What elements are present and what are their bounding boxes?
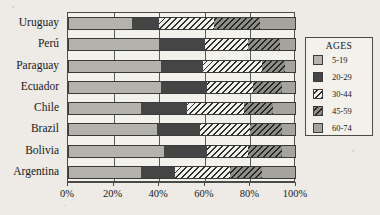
legend-swatch-icon [313, 123, 323, 133]
category-label: Perú [38, 37, 59, 50]
scan-speckle [64, 205, 66, 206]
bar-segment [205, 38, 248, 51]
bar-segment [248, 38, 280, 51]
bar-segment [164, 145, 207, 158]
category-label: Chile [34, 101, 59, 114]
scan-speckle [196, 196, 198, 198]
x-axis-tick [113, 182, 114, 186]
category-label: Paraguay [16, 59, 59, 72]
bar-segment [214, 17, 260, 30]
x-axis-tick [158, 182, 159, 186]
bar-segment [273, 102, 296, 115]
x-axis-tick-label: 100% [283, 188, 308, 200]
bar-segment [161, 81, 207, 94]
bar-segment [282, 123, 296, 136]
bar-segment [159, 38, 205, 51]
bar-segment [68, 145, 164, 158]
bar-segment [132, 17, 159, 30]
legend-swatch-icon [313, 106, 323, 116]
bar-segment [253, 81, 283, 94]
scan-speckle [352, 150, 354, 152]
legend-swatch-icon [313, 72, 323, 82]
bar-segment [280, 38, 296, 51]
bar-segment [262, 166, 296, 179]
category-label: Bolivia [25, 144, 59, 157]
x-axis-tick [204, 182, 205, 186]
bar-segment [68, 102, 141, 115]
bar-row [68, 102, 294, 115]
bar-segment [161, 60, 202, 73]
x-axis-tick [249, 182, 250, 186]
x-axis-tick [295, 182, 296, 186]
category-label: Ecuador [21, 80, 59, 93]
bar-row [68, 81, 294, 94]
legend-label: 20-29 [332, 72, 352, 82]
bar-row [68, 17, 294, 30]
scan-speckle [12, 6, 14, 8]
legend-item[interactable]: 30-44 [313, 88, 352, 100]
legend-item[interactable]: 20-29 [313, 71, 352, 83]
bar-segment [244, 102, 274, 115]
bar-segment [68, 60, 161, 73]
category-axis-labels: UruguayPerúParaguayEcuadorChileBrazilBol… [0, 12, 63, 182]
bar-row [68, 38, 294, 51]
bar-segment [159, 17, 214, 30]
bar-row [68, 60, 294, 73]
x-axis-line [67, 182, 295, 183]
bar-segment [285, 60, 296, 73]
x-axis-tick-label: 0% [60, 188, 74, 200]
bar-segment [141, 102, 187, 115]
bar-segment [68, 17, 132, 30]
scan-speckle [300, 10, 301, 11]
legend-item[interactable]: 45-59 [313, 105, 352, 117]
legend-label: 45-59 [332, 106, 352, 116]
bar-segment [282, 81, 296, 94]
bar-segment [175, 166, 230, 179]
bar-segment [250, 123, 282, 136]
stacked-bar-chart: UruguayPerúParaguayEcuadorChileBrazilBol… [0, 0, 380, 215]
legend-label: 5-19 [332, 55, 348, 65]
legend-item[interactable]: 60-74 [313, 122, 352, 134]
bar-segment [248, 145, 282, 158]
bar-segment [157, 123, 200, 136]
plot-area [67, 12, 295, 182]
legend: AGES 5-1920-2930-4445-5960-74 [305, 37, 373, 136]
bar-segment [282, 145, 296, 158]
category-label: Argentina [13, 165, 59, 178]
category-label: Brazil [31, 122, 59, 135]
bar-segment [230, 166, 262, 179]
bar-segment [262, 60, 285, 73]
bar-segment [141, 166, 175, 179]
bar-segment [260, 17, 296, 30]
legend-swatch-icon [313, 55, 323, 65]
x-axis-tick-label: 40% [149, 188, 168, 200]
bars-layer [68, 13, 294, 181]
bar-segment [187, 102, 244, 115]
bar-segment [207, 145, 248, 158]
bar-row [68, 123, 294, 136]
x-axis-tick-label: 60% [194, 188, 213, 200]
category-label: Uruguay [19, 16, 59, 29]
bar-segment [68, 123, 157, 136]
bar-row [68, 166, 294, 179]
x-axis-tick-label: 20% [103, 188, 122, 200]
bar-segment [207, 81, 253, 94]
bar-segment [68, 38, 159, 51]
bar-row [68, 145, 294, 158]
legend-swatch-icon [313, 89, 323, 99]
x-axis-tick-label: 80% [240, 188, 259, 200]
legend-label: 60-74 [332, 123, 352, 133]
bar-segment [68, 81, 161, 94]
x-axis-tick [67, 182, 68, 186]
legend-label: 30-44 [332, 89, 352, 99]
legend-title: AGES [306, 41, 372, 51]
bar-segment [68, 166, 141, 179]
legend-item[interactable]: 5-19 [313, 54, 348, 66]
bar-segment [200, 123, 250, 136]
bar-segment [203, 60, 262, 73]
